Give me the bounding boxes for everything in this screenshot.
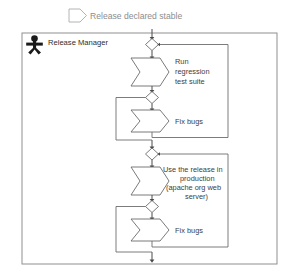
activity-label: Fix bugs <box>175 117 203 126</box>
diagram-svg: Release declared stable Release Manager <box>0 0 299 280</box>
swimlane-label: Release Manager <box>48 38 108 47</box>
activity-label: Fix bugs <box>175 226 203 235</box>
signal-receipt-chevron-icon <box>69 9 87 22</box>
activity-diagram-canvas: Release declared stable Release Manager <box>0 0 299 280</box>
signal-event-group: Release declared stable <box>69 9 182 22</box>
activity-label-line-2: regression <box>175 67 210 76</box>
signal-event-label: Release declared stable <box>90 11 182 21</box>
activity-label-line-1: Use the release in <box>163 165 223 174</box>
activity-label-line-2: production <box>180 174 215 183</box>
activity-label-line-3: test suite <box>175 77 205 86</box>
activity-label-line-4: server) <box>185 192 208 201</box>
activity-label-line-1: Run <box>175 57 189 66</box>
activity-label-line-3: (apache org web <box>166 183 221 192</box>
